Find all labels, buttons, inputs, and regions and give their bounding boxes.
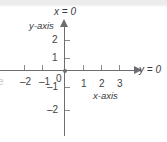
x-tick-label-1: 1	[81, 78, 87, 89]
x-axis-name-label: x-axis	[93, 90, 118, 101]
coordinate-axes-figure: –2 –1 0 1 2 3 2 1 –1 –2 x = 0 y = 0 y-ax…	[0, 0, 167, 142]
x-tick-label-2: 2	[99, 78, 105, 89]
x-axis-line	[0, 70, 137, 71]
y-axis-name-label: y-axis	[29, 20, 54, 31]
x-tick-label--2: –2	[20, 76, 31, 87]
x-tick-mark	[83, 65, 84, 70]
x-tick-mark	[42, 65, 43, 70]
y-axis-arrow-icon	[60, 19, 68, 27]
y-tick-label--2: –2	[47, 104, 58, 115]
x-tick-mark	[24, 65, 25, 70]
y-tick-mark	[65, 40, 70, 41]
y-tick-mark	[65, 58, 70, 59]
y-equals-zero-label: y = 0	[139, 64, 161, 75]
x-tick-mark	[119, 65, 120, 70]
y-tick-label-2: 2	[52, 34, 58, 45]
y-tick-mark	[65, 87, 70, 88]
x-tick-label-3: 3	[117, 78, 123, 89]
cropped-text-fragment: e	[0, 76, 4, 87]
x-tick-mark	[101, 65, 102, 70]
y-tick-label--1: –1	[47, 81, 58, 92]
y-tick-label-1: 1	[52, 52, 58, 63]
origin-point-marker	[63, 69, 67, 73]
top-grey-band-secondary	[0, 5, 167, 7]
y-tick-mark	[65, 110, 70, 111]
y-axis-line	[64, 26, 65, 136]
x-equals-zero-label: x = 0	[54, 6, 76, 17]
